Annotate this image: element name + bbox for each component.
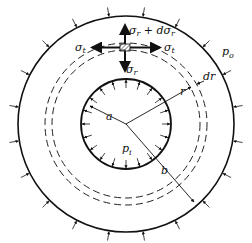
pressure-arrow-icon	[84, 135, 92, 137]
pressure-arrow-icon	[203, 201, 209, 207]
thick-cylinder-diagram: σr + dσr σt σt σr po dr r a pi b	[0, 0, 252, 243]
pressure-arrow-icon	[160, 135, 168, 137]
pressure-arrow-icon	[100, 153, 105, 159]
pressure-arrow-icon	[9, 106, 18, 107]
pressure-arrow-icon	[137, 158, 139, 166]
label-p-i: pi	[122, 142, 132, 157]
pressure-arrow-icon	[155, 145, 161, 150]
pressure-arrow-icon	[112, 158, 114, 166]
label-sigma-r-bottom: σr	[126, 63, 139, 77]
label-r: r	[180, 85, 186, 98]
pressure-arrow-icon	[72, 221, 76, 229]
stress-element	[120, 44, 130, 51]
label-p-o: po	[222, 45, 234, 60]
pressure-arrow-icon	[100, 88, 105, 94]
diagram-canvas: σr + dσr σt σt σr po dr r a pi b	[0, 0, 252, 243]
pressure-arrow-icon	[143, 232, 144, 241]
label-dr: dr	[203, 70, 216, 83]
pressure-arrow-icon	[234, 106, 243, 107]
pressure-arrow-icon	[90, 98, 96, 103]
radius-b-line	[126, 124, 194, 202]
label-sigma-t-left: σt	[75, 41, 87, 55]
pressure-arrow-icon	[155, 98, 161, 103]
label-sigma-r-plus: σr + dσr	[129, 24, 176, 38]
pressure-arrow-icon	[108, 7, 109, 16]
pressure-arrow-icon	[234, 141, 243, 142]
pressure-arrow-icon	[21, 173, 29, 177]
pressure-arrow-icon	[175, 19, 179, 27]
pressure-arrow-icon	[108, 232, 109, 241]
pressure-arrow-icon	[84, 110, 92, 112]
pressure-arrow-icon	[90, 145, 96, 150]
pressure-arrow-icon	[43, 201, 49, 207]
pressure-arrow-icon	[112, 82, 114, 90]
pressure-arrow-icon	[21, 70, 29, 74]
label-sigma-t-right: σt	[164, 41, 176, 55]
pressure-arrow-icon	[175, 221, 179, 229]
pressure-arrow-icon	[143, 7, 144, 16]
pressure-arrow-icon	[160, 110, 168, 112]
pressure-arrow-icon	[147, 88, 152, 94]
pressure-arrow-icon	[72, 19, 76, 27]
pressure-arrow-icon	[147, 153, 152, 159]
pressure-arrow-icon	[137, 82, 139, 90]
label-a: a	[106, 110, 113, 123]
label-b: b	[161, 164, 168, 177]
pressure-arrow-icon	[223, 173, 231, 177]
pressure-arrow-icon	[203, 41, 209, 47]
pressure-arrow-icon	[9, 141, 18, 142]
pressure-arrow-icon	[223, 70, 231, 74]
pressure-arrow-icon	[43, 41, 49, 47]
